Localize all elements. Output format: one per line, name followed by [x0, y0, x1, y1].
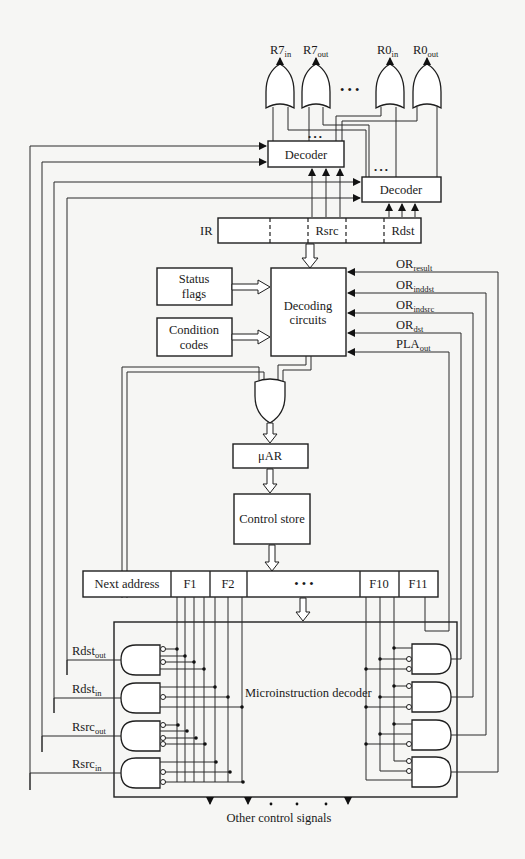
mir-field-ellipsis: • • • [294, 577, 313, 591]
label-rsrc-out: Rsrcout [72, 720, 106, 736]
condition-codes-line1: Condition [169, 323, 220, 337]
decoding-circuits-line1: Decoding [284, 299, 333, 313]
ir-field-rdst: Rdst [392, 224, 415, 238]
ir-label: IR [200, 224, 213, 238]
and-gate-rdst-in [121, 683, 160, 713]
codes-to-decoding-arrow [232, 330, 270, 344]
condition-codes-line2: codes [180, 338, 209, 352]
uar-to-store-arrow [263, 469, 277, 493]
other-control-signals-label: Other control signals [227, 811, 332, 825]
ir-to-decoding-arrow [302, 244, 318, 268]
or-gate-r7-in [266, 64, 294, 108]
label-r7-in: R7in [270, 43, 292, 59]
label-rdst-out: Rdstout [72, 644, 106, 660]
or-to-uar-arrow [263, 423, 277, 443]
store-to-mir-arrow [265, 545, 279, 571]
gates-ellipsis: • • • [340, 83, 359, 97]
status-to-decoding-arrow [232, 280, 270, 294]
decoder-top-label: Decoder [285, 148, 328, 162]
decoder-bottom-label: Decoder [380, 183, 423, 197]
label-or-indsrc: ORindsrc [396, 298, 434, 314]
and-gate-or-result [412, 644, 451, 674]
label-or-dst: ORdst [396, 318, 424, 334]
label-or-inddst: ORinddst [396, 278, 435, 294]
other-control-signal-arrows [210, 797, 348, 805]
uar-label: μAR [258, 449, 283, 463]
mir-field-f2: F2 [221, 577, 234, 591]
mir-field-f1: F1 [183, 577, 196, 591]
or-gate-r0-in [376, 64, 404, 108]
or-gate-r7-out [302, 64, 330, 108]
ir-field-rsrc: Rsrc [316, 224, 339, 238]
and-gate-or-dst [412, 757, 451, 787]
label-pla-out: PLAout [396, 337, 431, 353]
and-gate-or-indsrc [412, 720, 451, 750]
mir-field-next-address: Next address [95, 577, 160, 591]
status-flags-line1: Status [179, 272, 210, 286]
right-and-gates [364, 638, 498, 787]
and-gate-rdst-out [121, 645, 160, 675]
label-r7-out: R7out [303, 43, 329, 59]
label-or-result: ORresult [396, 257, 433, 273]
f1-f2-lines [177, 597, 242, 782]
label-rdst-in: Rdstin [72, 682, 102, 698]
or-gate-r0-out [413, 64, 441, 108]
decoder-bottom-ellipsis: • • • [374, 165, 388, 175]
status-flags-line2: flags [182, 287, 206, 301]
and-gate-rsrc-out [121, 721, 160, 751]
left-and-gates [30, 645, 245, 790]
address-or-gate [255, 379, 285, 423]
and-gate-or-inddst [412, 682, 451, 712]
decoding-circuits-line2: circuits [290, 313, 327, 327]
label-r0-in: R0in [377, 43, 399, 59]
microinstruction-decoder-label: Microinstruction decoder [245, 686, 373, 700]
mir-field-f11: F11 [409, 577, 428, 591]
label-rsrc-in: Rsrcin [72, 757, 102, 773]
mir-to-decoder-arrow [296, 598, 310, 621]
label-r0-out: R0out [413, 43, 439, 59]
and-gate-rsrc-in [121, 758, 160, 788]
microprogram-control-diagram: R7in R7out R0in R0out • • • • • • • • • … [0, 0, 525, 859]
mir-field-f10: F10 [369, 577, 388, 591]
control-store-label: Control store [239, 512, 305, 526]
